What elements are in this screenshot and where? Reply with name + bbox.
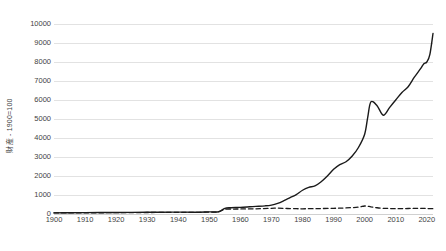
x-tick-label: 1940 xyxy=(170,216,187,224)
y-tick-label: 2000 xyxy=(34,172,51,180)
x-tick-label: 1920 xyxy=(108,216,125,224)
solid-series-line xyxy=(54,34,433,213)
y-tick-label: 1000 xyxy=(34,191,51,199)
x-tick-label: 2010 xyxy=(387,216,404,224)
x-axis-tick-labels: 1900191019201930194019501960197019801990… xyxy=(54,216,433,236)
x-tick-label: 1910 xyxy=(77,216,94,224)
plot-area xyxy=(54,24,433,214)
y-axis-tick-labels: 0100020003000400050006000700080009000100… xyxy=(18,0,54,251)
x-tick-label: 1980 xyxy=(294,216,311,224)
x-tick-label: 1960 xyxy=(232,216,249,224)
x-tick-label: 2020 xyxy=(418,216,435,224)
line-chart: 財産 - 1900=100 01000200030004000500060007… xyxy=(0,0,446,251)
y-tick-label: 7000 xyxy=(34,77,51,85)
x-tick-label: 2000 xyxy=(356,216,373,224)
x-tick-label: 1950 xyxy=(201,216,218,224)
series-layer xyxy=(54,24,433,214)
y-tick-label: 6000 xyxy=(34,96,51,104)
y-tick-label: 5000 xyxy=(34,115,51,123)
x-tick-label: 1990 xyxy=(325,216,342,224)
y-tick-label: 4000 xyxy=(34,134,51,142)
y-axis-title: 財産 - 1900=100 xyxy=(0,0,18,251)
y-tick-label: 8000 xyxy=(34,58,51,66)
y-tick-label: 10000 xyxy=(30,20,51,28)
y-tick-label: 3000 xyxy=(34,153,51,161)
y-axis-title-label: 財産 - 1900=100 xyxy=(6,98,13,152)
y-tick-label: 9000 xyxy=(34,39,51,47)
x-tick-label: 1970 xyxy=(263,216,280,224)
x-tick-label: 1900 xyxy=(46,216,63,224)
x-tick-label: 1930 xyxy=(139,216,156,224)
